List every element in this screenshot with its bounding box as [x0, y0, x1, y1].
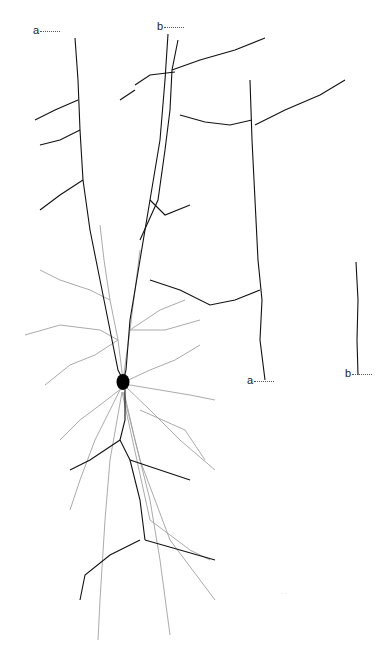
label-b-bottom: b [345, 368, 372, 379]
axon [35, 34, 358, 600]
label-a-top: a [33, 25, 60, 36]
dendrites [25, 225, 215, 640]
scale-bar: · · [281, 590, 287, 596]
soma [117, 374, 130, 390]
neuron-diagram: a b a b · · [0, 0, 388, 652]
neuron-tracing [0, 0, 388, 652]
label-a-bottom: a [247, 375, 274, 386]
label-b-top: b [157, 21, 184, 32]
